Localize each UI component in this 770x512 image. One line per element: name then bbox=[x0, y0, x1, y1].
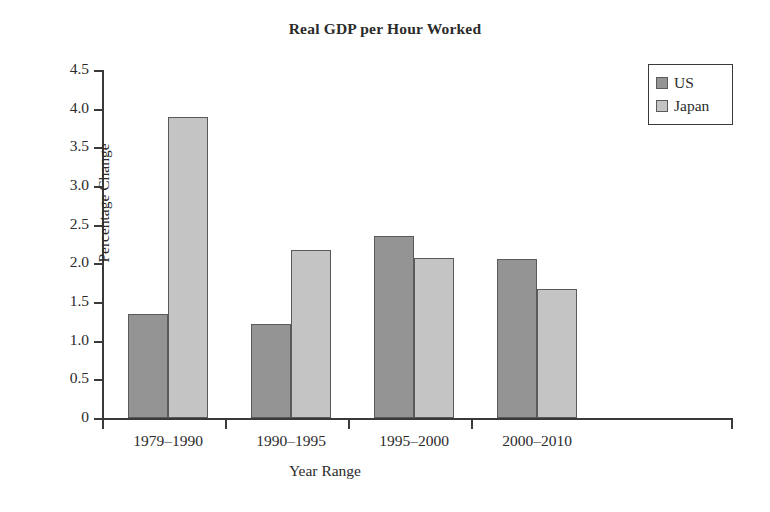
y-axis-tick-label: 0.5 bbox=[70, 369, 89, 387]
y-axis-tick-label: 2.5 bbox=[70, 215, 89, 233]
legend-item-japan: Japan bbox=[656, 94, 725, 117]
x-axis-tick-mark bbox=[225, 420, 227, 429]
x-axis-category-label: 1990–1995 bbox=[231, 432, 351, 450]
bar-japan-2 bbox=[414, 258, 454, 418]
y-axis-tick-label: 2.0 bbox=[70, 253, 89, 271]
x-axis-title: Year Range bbox=[0, 462, 650, 480]
chart-figure: Real GDP per Hour Worked 00.51.01.52.02.… bbox=[0, 0, 770, 512]
legend-label: US bbox=[674, 75, 694, 91]
y-axis-tick-label: 1.0 bbox=[70, 331, 89, 349]
y-axis-tick-mark bbox=[94, 418, 102, 420]
y-axis-tick-label: 3.0 bbox=[70, 176, 89, 194]
chart-legend: USJapan bbox=[648, 64, 733, 125]
bar-us-3 bbox=[497, 259, 537, 418]
y-axis-tick-label: 0 bbox=[81, 408, 89, 426]
bar-us-1 bbox=[251, 324, 291, 418]
x-axis-line bbox=[102, 418, 733, 420]
bar-japan-1 bbox=[291, 250, 331, 418]
bar-japan-3 bbox=[537, 289, 577, 418]
legend-label: Japan bbox=[674, 98, 709, 114]
legend-swatch-icon bbox=[656, 77, 668, 89]
bar-japan-0 bbox=[168, 117, 208, 418]
y-axis-title: Percentage Change bbox=[95, 29, 113, 377]
x-axis-end-tick bbox=[731, 420, 733, 429]
bar-us-2 bbox=[374, 236, 414, 419]
y-axis-tick-label: 1.5 bbox=[70, 292, 89, 310]
x-axis-tick-mark bbox=[102, 420, 104, 429]
legend-item-us: US bbox=[656, 71, 725, 94]
y-axis-tick-label: 4.5 bbox=[70, 60, 89, 78]
x-axis-category-label: 2000–2010 bbox=[477, 432, 597, 450]
chart-title: Real GDP per Hour Worked bbox=[0, 20, 770, 38]
y-axis-tick-mark bbox=[94, 379, 102, 381]
x-axis-tick-mark bbox=[348, 420, 350, 429]
bar-us-0 bbox=[128, 314, 168, 418]
plot-area: 00.51.01.52.02.53.03.54.04.5 Percentage … bbox=[102, 70, 733, 418]
legend-swatch-icon bbox=[656, 100, 668, 112]
y-axis-tick-label: 4.0 bbox=[70, 99, 89, 117]
y-axis-tick-label: 3.5 bbox=[70, 137, 89, 155]
x-axis-category-label: 1995–2000 bbox=[354, 432, 474, 450]
x-axis-category-label: 1979–1990 bbox=[108, 432, 228, 450]
x-axis-tick-mark bbox=[471, 420, 473, 429]
